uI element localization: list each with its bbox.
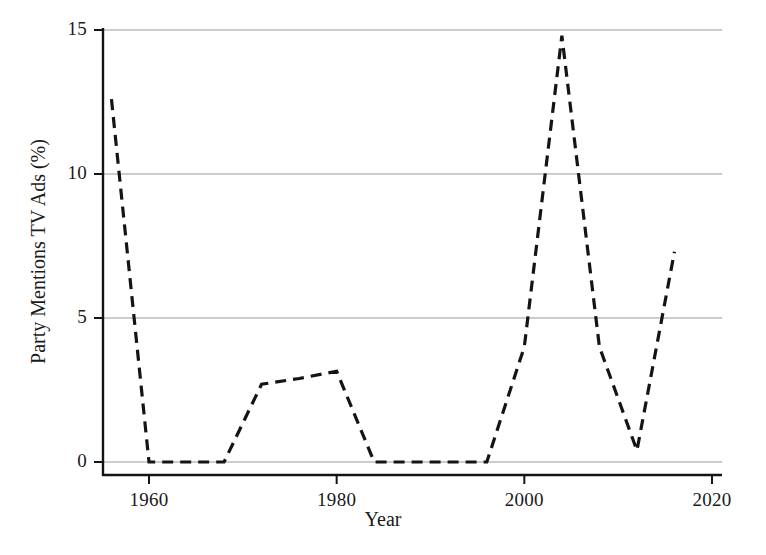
axis-spines-group	[102, 28, 722, 476]
y-tick-label-15: 15	[25, 18, 87, 40]
x-axis-label: Year	[0, 508, 766, 531]
gridlines-group	[103, 30, 722, 462]
line-chart-canvas	[0, 0, 766, 555]
chart-figure: 051015 1960198020002020 Year Party Menti…	[0, 0, 766, 555]
y-axis-label: Party Mentions TV Ads (%)	[27, 92, 50, 412]
data-series-line	[111, 36, 674, 462]
y-tick-label-0: 0	[25, 450, 87, 472]
x-tick-marks-group	[149, 475, 712, 484]
y-tick-marks-group	[94, 30, 103, 462]
